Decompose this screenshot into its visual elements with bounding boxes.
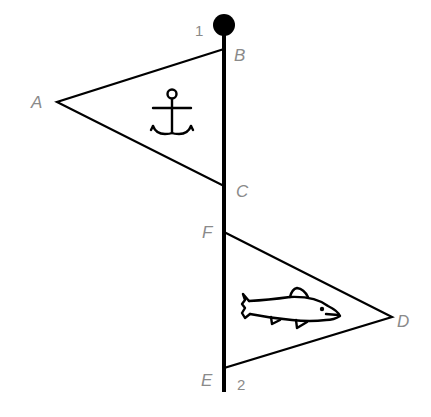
- point-label-a: A: [30, 93, 42, 112]
- pole-top-label: 1: [195, 22, 203, 39]
- anchor-icon: [151, 90, 193, 135]
- point-label-e: E: [201, 371, 213, 390]
- top-flag: [57, 49, 224, 186]
- point-label-f: F: [202, 223, 214, 242]
- point-label-b: B: [234, 46, 245, 65]
- flag-diagram: 1 B A C F D E 2: [0, 0, 431, 417]
- fish-eye: [320, 307, 324, 311]
- pole-bottom-label: 2: [237, 376, 245, 393]
- pole-top-ball: [213, 14, 235, 36]
- point-label-c: C: [236, 182, 249, 201]
- fish-icon: [242, 288, 340, 328]
- point-label-d: D: [397, 312, 409, 331]
